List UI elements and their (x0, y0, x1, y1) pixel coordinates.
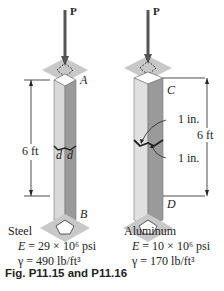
aluminum-e-value: = 10 × 10⁶ psi (142, 239, 210, 253)
steel-load-label: P (70, 5, 77, 17)
figure-caption: Fig. P11.15 and P11.16 (5, 267, 127, 279)
steel-material-name: Steel (8, 224, 32, 239)
aluminum-dim-top-label: 1 in. (178, 112, 199, 127)
aluminum-material-name: Aluminum (124, 224, 176, 239)
steel-length-label: 6 ft (22, 144, 38, 159)
steel-e-symbol: E (18, 239, 25, 253)
aluminum-modulus: E = 10 × 10⁶ psi (132, 239, 210, 254)
steel-gamma-symbol: γ (18, 254, 23, 268)
aluminum-gamma-symbol: γ (132, 254, 137, 268)
steel-dimension-d-left: d (56, 148, 62, 163)
aluminum-specific-weight: γ = 170 lb/ft³ (132, 254, 195, 269)
aluminum-gamma-value: = 170 lb/ft³ (140, 254, 194, 268)
aluminum-point-c-label: C (167, 83, 175, 98)
aluminum-length-label: 6 ft (197, 128, 213, 143)
aluminum-point-d-label: D (167, 197, 176, 212)
aluminum-column-left-face (134, 78, 148, 226)
aluminum-e-symbol: E (132, 239, 139, 253)
steel-modulus: E = 29 × 10⁶ psi (18, 239, 96, 254)
steel-point-b-label: B (80, 207, 87, 222)
steel-gamma-value: = 490 lb/ft³ (26, 254, 80, 268)
aluminum-dim-bottom-label: 1 in. (178, 151, 199, 166)
steel-e-value: = 29 × 10⁶ psi (28, 239, 96, 253)
aluminum-load-label: P (153, 5, 160, 17)
steel-dimension-d-right: d (67, 148, 73, 163)
steel-point-a-label: A (80, 73, 87, 88)
